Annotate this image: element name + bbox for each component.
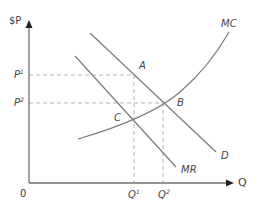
mr-label: MR [181,164,197,175]
d-label: D [221,150,229,161]
y-axis-arrow-icon [26,20,33,28]
q1-sup: 1 [136,188,140,195]
mc-label: MC [221,18,237,29]
origin-label: 0 [20,188,26,199]
x-axis-label: Q [238,176,247,189]
p1-tick-label: P1 [14,68,24,80]
p1-sup: 1 [20,68,24,75]
point-b-label: B [177,97,184,108]
point-a-label: A [139,60,146,71]
q1-text: Q [128,189,136,200]
chart: $P Q 0 P1 P2 Q1 Q2 MC D MR A B C [0,0,260,213]
x-axis-arrow-icon [226,180,234,187]
mr-curve [75,56,176,167]
q1-tick-label: Q1 [128,188,140,200]
mc-curve [78,32,229,139]
point-c-label: C [114,112,121,123]
p2-tick-label: P2 [14,96,24,108]
p2-sup: 2 [20,96,24,103]
chart-plot [0,0,260,213]
q2-sup: 2 [166,188,170,195]
q2-text: Q [158,189,166,200]
y-axis-label: $P [9,15,21,26]
q2-tick-label: Q2 [158,188,170,200]
